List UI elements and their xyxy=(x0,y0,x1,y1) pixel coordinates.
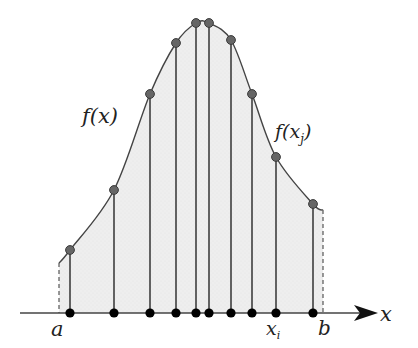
curve-sample-point xyxy=(146,90,155,99)
curve-sample-point xyxy=(192,19,201,28)
curve-sample-point xyxy=(66,246,75,255)
axis-sample-point xyxy=(191,308,200,317)
axis-sample-point xyxy=(65,308,74,317)
axis-sample-point xyxy=(109,308,118,317)
axis-sample-point xyxy=(226,308,235,317)
function-sample-label: f(xj) xyxy=(273,120,311,146)
curve-sample-point xyxy=(205,19,214,28)
curve-sample-point xyxy=(172,39,181,48)
sample-x-label: xi xyxy=(266,317,280,342)
curve-sample-point xyxy=(309,200,318,209)
curve-sample-point xyxy=(272,153,281,162)
curve-sample-point xyxy=(110,186,119,195)
axis-sample-point xyxy=(171,308,180,317)
axis-sample-point xyxy=(308,308,317,317)
curve-sample-point xyxy=(227,36,236,45)
lower-bound-label: a xyxy=(51,317,64,341)
sampling-diagram: f(x) f(xj) a b x xi xyxy=(0,0,418,348)
function-label: f(x) xyxy=(80,104,118,128)
axis-sample-point xyxy=(204,308,213,317)
curve-sample-point xyxy=(248,90,257,99)
axis-label: x xyxy=(380,302,392,326)
upper-bound-label: b xyxy=(318,316,331,340)
area-under-curve xyxy=(59,21,323,313)
axis-sample-point xyxy=(145,308,154,317)
axis-sample-point xyxy=(247,308,256,317)
